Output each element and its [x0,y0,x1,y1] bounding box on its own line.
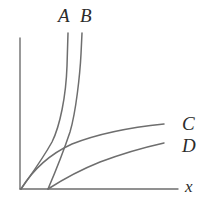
curve-label-b: B [80,6,92,25]
curve-b [48,33,82,189]
plot-canvas [0,0,210,221]
growth-curves-figure: A B C D x [0,0,210,221]
curve-label-c: C [182,114,195,133]
curve-label-a: A [58,6,70,25]
curve-a [21,33,68,189]
curve-d [48,143,164,189]
curve-label-d: D [182,136,196,155]
x-axis-label: x [185,178,193,195]
